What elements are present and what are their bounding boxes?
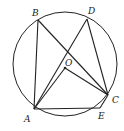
label-e: E [97, 111, 105, 121]
label-a: A [23, 114, 31, 124]
label-o: O [65, 58, 73, 68]
segment-oa [34, 68, 65, 109]
label-d: D [87, 6, 95, 16]
geometry-diagram: ABDOCE [0, 0, 124, 131]
segment-ae [34, 108, 100, 109]
label-c: C [112, 95, 119, 105]
segment-ba [34, 20, 38, 109]
label-b: B [31, 8, 39, 18]
